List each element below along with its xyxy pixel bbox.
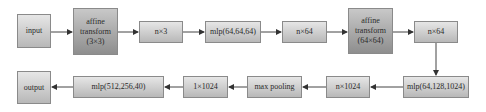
n-by-64-node-a: n×64	[282, 21, 327, 43]
n-by-64-node-b: n×64	[414, 21, 458, 43]
n-by-3-node: n×3	[139, 21, 183, 43]
mlp-512-256-40-node: mlp(512,256,40)	[73, 76, 164, 98]
mlp-64-128-1024-node: mlp(64,128,1024)	[403, 76, 469, 98]
max-pooling-node: max pooling	[247, 76, 302, 98]
affine-transform-3x3-node: affine transform (3×3)	[73, 8, 118, 55]
mlp-64-64-64-node: mlp(64,64,64)	[205, 21, 261, 43]
affine-transform-64x64-node: affine transform (64×64)	[348, 8, 393, 54]
output-node: output	[17, 71, 51, 104]
global-feature-1x1024-node: 1×1024	[183, 76, 228, 98]
n-by-1024-node: n×1024	[326, 76, 370, 98]
input-node: input	[17, 14, 51, 48]
